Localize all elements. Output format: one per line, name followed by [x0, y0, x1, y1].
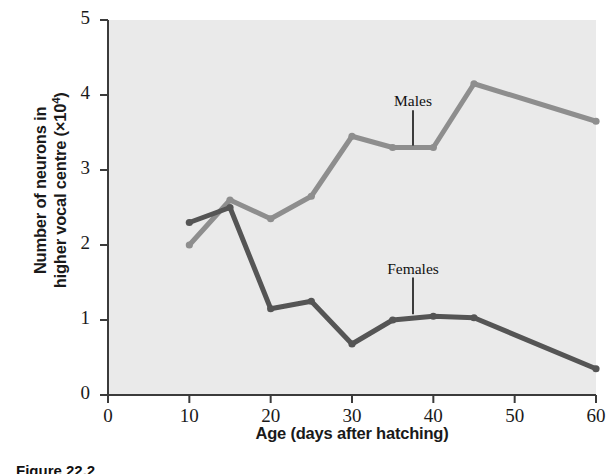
y-axis-tick-label: 3 [54, 157, 90, 179]
data-point [226, 196, 233, 203]
y-axis-ticks [100, 20, 108, 395]
x-axis-tick-label: 20 [246, 405, 296, 427]
y-axis-tick-label: 1 [54, 307, 90, 329]
x-axis-tick-label: 0 [83, 405, 133, 427]
y-axis-title: Number of neurons in higher vocal centre… [30, 0, 71, 390]
y-axis-tick-label: 4 [54, 82, 90, 104]
y-axis-tick-label: 0 [54, 382, 90, 404]
series-label-males: Males [394, 92, 432, 110]
x-axis-tick-label: 60 [571, 405, 616, 427]
data-point [186, 241, 193, 248]
y-axis-title-line1: Number of neurons in [31, 107, 49, 274]
data-point [226, 204, 233, 211]
figure-caption: Figure 22.2 [16, 462, 95, 474]
y-axis-tick-label: 5 [54, 7, 90, 29]
x-axis-tick-label: 50 [490, 405, 540, 427]
data-point [470, 80, 477, 87]
data-point [186, 219, 193, 226]
data-point [389, 144, 396, 151]
plot-area [0, 0, 616, 474]
data-point [592, 118, 599, 125]
data-point [348, 133, 355, 140]
x-axis-tick-label: 30 [327, 405, 377, 427]
data-point [592, 365, 599, 372]
figure-chart: Number of neurons in higher vocal centre… [0, 0, 616, 474]
data-point [348, 340, 355, 347]
data-point [308, 298, 315, 305]
x-axis-ticks [108, 395, 596, 403]
y-axis-title-line2: higher vocal centre (×104) [50, 0, 71, 390]
data-point [267, 305, 274, 312]
x-axis-tick-label: 10 [164, 405, 214, 427]
data-point [430, 313, 437, 320]
y-axis-title-line2-pre: higher vocal centre (×10 [51, 104, 69, 289]
series-label-females: Females [387, 260, 439, 278]
data-point [389, 316, 396, 323]
x-axis-tick-label: 40 [408, 405, 458, 427]
data-point [308, 193, 315, 200]
data-point [470, 314, 477, 321]
data-point [430, 144, 437, 151]
y-axis-tick-label: 2 [54, 232, 90, 254]
data-point [267, 215, 274, 222]
